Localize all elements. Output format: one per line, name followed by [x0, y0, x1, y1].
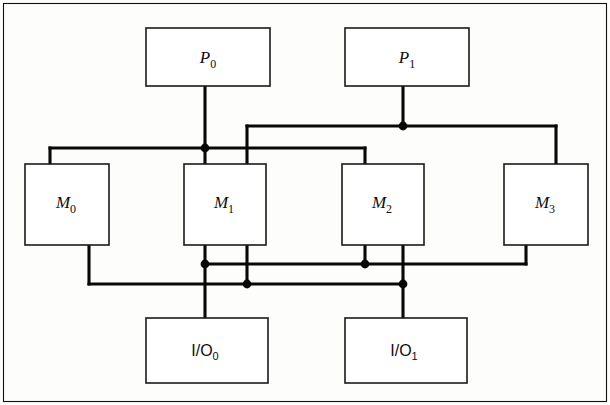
- junction-p1-bus-tap: [399, 122, 408, 131]
- interconnection-diagram: P0 P1 M0 M1 M2: [0, 0, 610, 405]
- node-m2[interactable]: M2: [342, 164, 424, 245]
- node-io0[interactable]: I/O0: [146, 318, 268, 383]
- node-p1[interactable]: P1: [345, 28, 469, 86]
- node-m0[interactable]: M0: [25, 164, 109, 245]
- junction-m2-io1-tap: [399, 280, 408, 289]
- junction-m1-io1-tap: [243, 280, 252, 289]
- junction-p0-bus-tap: [201, 144, 210, 153]
- wiring-layer: [49, 86, 558, 318]
- junction-m1-io0-tap: [201, 260, 210, 269]
- node-io1[interactable]: I/O1: [345, 318, 467, 383]
- node-m1[interactable]: M1: [184, 164, 266, 245]
- diagram-canvas: P0 P1 M0 M1 M2: [0, 0, 610, 405]
- junction-m2-io0-tap: [361, 260, 370, 269]
- nodes-layer: P0 P1 M0 M1 M2: [25, 28, 588, 383]
- node-p0[interactable]: P0: [146, 28, 270, 86]
- node-m3[interactable]: M3: [504, 164, 588, 245]
